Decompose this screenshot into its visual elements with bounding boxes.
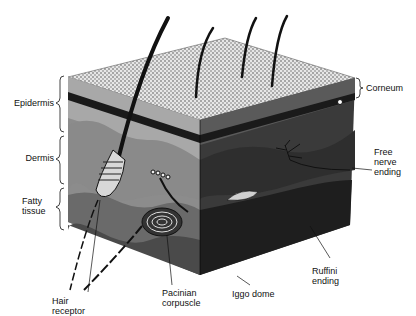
dermis-bracket [56, 136, 64, 184]
label-iggo-dome: Iggo dome [232, 289, 275, 299]
label-corneum: Corneum [366, 83, 403, 93]
epidermis-bracket [56, 76, 64, 132]
label-epidermis: Epidermis [2, 98, 54, 108]
skin-diagram [0, 0, 416, 316]
label-ruffini-ending: Ruffini ending [312, 266, 339, 286]
label-dermis: Dermis [2, 153, 54, 163]
fat-bracket [56, 188, 64, 230]
corneum-bracket [356, 78, 363, 98]
label-pacinian-corpuscle: Pacinian corpuscle [162, 288, 201, 308]
iggo-dome [338, 100, 343, 105]
label-free-nerve-ending: Free nerve ending [374, 147, 401, 177]
label-hair-receptor: Hair receptor [52, 296, 85, 316]
label-fatty-tissue: Fatty tissue [22, 196, 46, 216]
